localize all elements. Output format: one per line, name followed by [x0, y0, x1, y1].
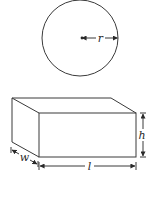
- height-label: h: [138, 129, 145, 142]
- radius-label: r: [98, 32, 104, 45]
- width-label: w: [20, 151, 30, 164]
- box-top-face: [12, 98, 136, 113]
- length-label: l: [88, 160, 92, 173]
- circle-figure: r: [42, 0, 118, 76]
- box-left-face: [12, 98, 39, 157]
- width-arrow-left: [12, 150, 19, 154]
- box-front-face: [39, 113, 136, 157]
- geometry-diagram: r h w l: [0, 0, 156, 212]
- width-arrow-right: [30, 160, 37, 164]
- box-figure: h w l: [11, 98, 146, 173]
